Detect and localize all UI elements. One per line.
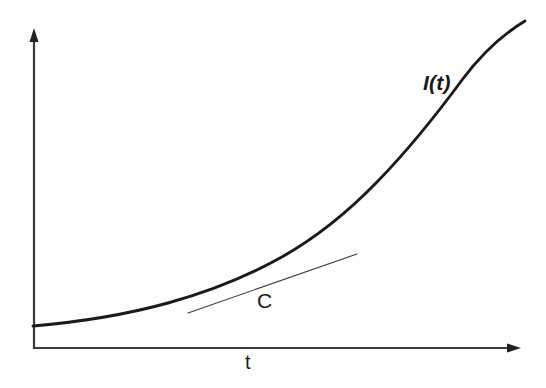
curve-label: I(t): [423, 72, 451, 93]
y-axis-arrow-icon: [30, 28, 39, 42]
plot-canvas: [0, 0, 546, 388]
x-axis-label: t: [245, 352, 251, 372]
x-axis-arrow-icon: [507, 344, 521, 353]
tangent-point-label: C: [257, 290, 272, 311]
graph-figure: I(t) C t: [0, 0, 546, 388]
y-axis: [30, 28, 39, 349]
growth-curve: [33, 21, 525, 326]
x-axis: [33, 344, 521, 353]
